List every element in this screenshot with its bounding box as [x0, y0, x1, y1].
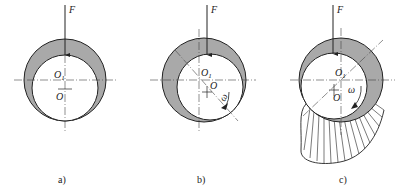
panel-a: F O1 O a): [14, 4, 118, 186]
force-label: F: [68, 4, 76, 15]
panel-c: F O1 O ω c): [290, 4, 395, 186]
force-label: F: [336, 4, 344, 15]
force-label: F: [210, 4, 218, 15]
caption-a: a): [58, 174, 66, 186]
rotation-label: ω: [348, 84, 355, 95]
bearing-center-label: O: [333, 92, 340, 103]
caption-b: b): [197, 174, 205, 186]
journal-bearing-diagram: F O1 O a) F O1 O ω b): [0, 0, 407, 195]
bearing-center-label: O: [210, 80, 217, 91]
bearing-center-label: O: [56, 91, 63, 102]
caption-c: c): [339, 174, 347, 186]
panel-b: F O1 O ω b): [150, 4, 256, 186]
